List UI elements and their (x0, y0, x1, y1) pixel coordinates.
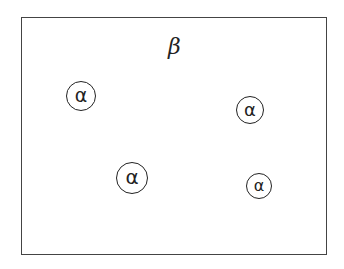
alpha-circle: α (116, 162, 148, 194)
beta-label: β (168, 34, 181, 59)
alpha-label: α (244, 99, 256, 120)
alpha-circle: α (246, 173, 272, 199)
alpha-circle: α (236, 96, 264, 124)
alpha-label: α (254, 176, 265, 195)
alpha-label: α (75, 84, 88, 106)
alpha-circle: α (66, 81, 96, 111)
alpha-label: α (125, 165, 138, 189)
